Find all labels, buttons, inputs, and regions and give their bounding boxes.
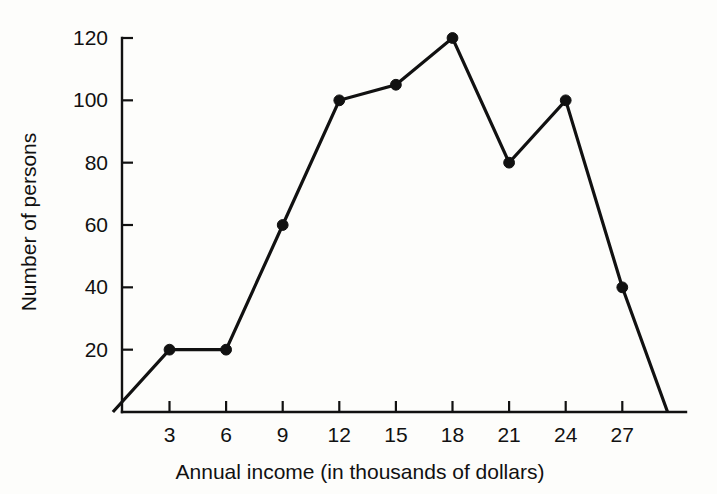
x-tick-label-12: 12 bbox=[328, 423, 351, 446]
data-point-27-40 bbox=[617, 282, 628, 293]
chart-plot-area: 20406080100120 369121518212427 Annual in… bbox=[0, 0, 717, 494]
y-tick-label-120: 120 bbox=[73, 26, 108, 49]
data-point-21-80 bbox=[504, 157, 515, 168]
x-tick-label-24: 24 bbox=[554, 423, 578, 446]
y-axis-tick-labels: 20406080100120 bbox=[73, 26, 108, 361]
x-axis-tick-labels: 369121518212427 bbox=[164, 423, 634, 446]
axes-group bbox=[122, 38, 686, 412]
x-tick-label-3: 3 bbox=[164, 423, 176, 446]
y-tick-label-60: 60 bbox=[85, 213, 108, 236]
y-axis-ticks bbox=[122, 38, 133, 350]
series-polyline bbox=[113, 38, 668, 412]
data-point-markers bbox=[164, 33, 628, 355]
y-tick-label-80: 80 bbox=[85, 151, 108, 174]
x-tick-label-18: 18 bbox=[441, 423, 464, 446]
x-tick-label-6: 6 bbox=[220, 423, 232, 446]
data-point-6-20 bbox=[221, 344, 232, 355]
x-tick-label-15: 15 bbox=[384, 423, 407, 446]
frequency-polygon-figure: 20406080100120 369121518212427 Annual in… bbox=[0, 0, 717, 494]
y-tick-label-100: 100 bbox=[73, 88, 108, 111]
data-point-15-105 bbox=[391, 79, 402, 90]
data-point-12-100 bbox=[334, 95, 345, 106]
data-point-3-20 bbox=[164, 344, 175, 355]
data-series-line bbox=[113, 38, 668, 412]
x-tick-label-27: 27 bbox=[611, 423, 634, 446]
y-tick-label-40: 40 bbox=[85, 275, 108, 298]
y-axis-title: Number of persons bbox=[17, 133, 40, 312]
x-tick-label-9: 9 bbox=[277, 423, 289, 446]
x-tick-label-21: 21 bbox=[497, 423, 520, 446]
x-axis-ticks bbox=[170, 401, 623, 412]
data-point-24-100 bbox=[560, 95, 571, 106]
data-point-9-60 bbox=[277, 220, 288, 231]
x-axis-title: Annual income (in thousands of dollars) bbox=[176, 460, 545, 483]
data-point-18-120 bbox=[447, 33, 458, 44]
y-tick-label-20: 20 bbox=[85, 338, 108, 361]
